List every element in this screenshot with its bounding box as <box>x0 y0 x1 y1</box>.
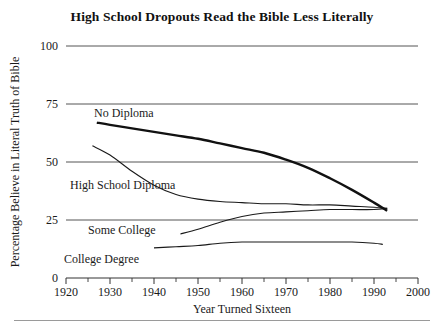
x-axis-title: Year Turned Sixteen <box>193 302 291 316</box>
x-tick-label: 1960 <box>230 285 254 299</box>
y-axis-tick-labels: 100 75 50 25 0 <box>40 39 58 285</box>
series-path-no-diploma <box>97 123 387 211</box>
gridlines <box>66 46 418 220</box>
x-tick-label: 1920 <box>54 285 78 299</box>
y-tick-label: 75 <box>46 97 58 111</box>
series-inline-labels: No Diploma High School Diploma Some Coll… <box>64 106 176 266</box>
series-path-college-degree <box>154 242 383 248</box>
series-label-some-college: Some College <box>88 223 156 237</box>
x-tick-label: 2000 <box>406 285 430 299</box>
series-label-no-diploma: No Diploma <box>94 106 154 120</box>
x-tick-label: 1950 <box>186 285 210 299</box>
x-tick-label: 1990 <box>362 285 386 299</box>
series-path-some-college <box>180 208 387 234</box>
chart-figure: High School Dropouts Read the Bible Less… <box>0 0 444 334</box>
x-axis-major-ticks <box>66 278 418 284</box>
y-tick-label: 0 <box>52 271 58 285</box>
x-axis-tick-labels: 1920 1930 1940 1950 1960 1970 1980 1990 … <box>54 285 430 299</box>
series-label-high-school-diploma: High School Diploma <box>70 178 176 192</box>
x-tick-label: 1940 <box>142 285 166 299</box>
y-tick-label: 100 <box>40 39 58 53</box>
x-tick-label: 1980 <box>318 285 342 299</box>
x-tick-label: 1930 <box>98 285 122 299</box>
x-tick-label: 1970 <box>274 285 298 299</box>
series-label-college-degree: College Degree <box>64 252 139 266</box>
footer-divider <box>14 320 430 321</box>
y-tick-label: 50 <box>46 155 58 169</box>
y-tick-label: 25 <box>46 213 58 227</box>
line-chart-plot: Percentage Believe in Literal Truth of B… <box>0 0 444 334</box>
y-axis-title: Percentage Believe in Literal Truth of B… <box>8 57 22 268</box>
